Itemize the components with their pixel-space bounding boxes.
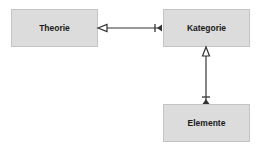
node-elemente-label: Elemente	[188, 118, 226, 128]
open-triangle-arrow-icon	[98, 25, 107, 32]
edge-elemente-kategorie	[202, 47, 210, 104]
small-arrow-icon	[157, 25, 162, 32]
node-theorie-label: Theorie	[39, 23, 70, 33]
node-theorie: Theorie	[11, 9, 98, 47]
node-kategorie: Kategorie	[163, 9, 250, 47]
edge-kategorie-theorie	[98, 24, 162, 32]
open-triangle-arrow-icon	[203, 47, 210, 56]
node-kategorie-label: Kategorie	[187, 23, 226, 33]
node-elemente: Elemente	[163, 104, 250, 142]
